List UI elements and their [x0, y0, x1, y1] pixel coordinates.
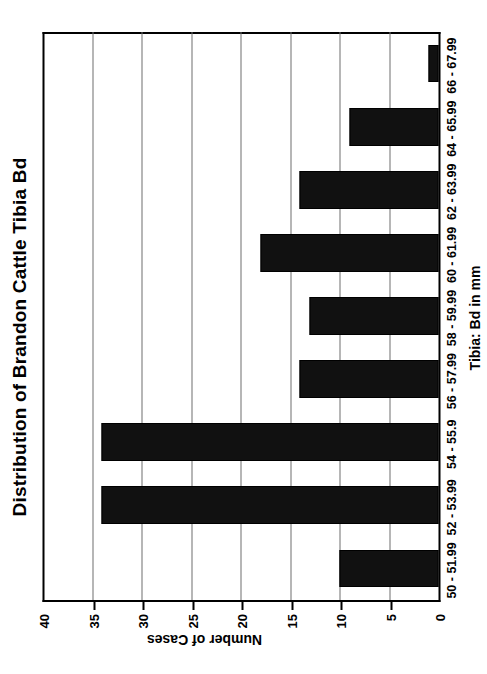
value-axis-tick-mark: [390, 602, 392, 610]
bar-slot: [42, 95, 438, 158]
value-axis-tick-label: 5: [383, 614, 398, 621]
value-axis-tick-mark: [192, 602, 194, 610]
chart-title: Distribution of Brandon Cattle Tibia Bd: [8, 0, 30, 674]
value-axis-tick-label: 15: [284, 614, 299, 628]
bar-slot: [42, 221, 438, 284]
value-axis-tick-mark: [340, 602, 342, 610]
value-axis-tick-label: 20: [235, 614, 250, 628]
bar: [299, 171, 438, 209]
value-axis-tick-mark: [291, 602, 293, 610]
value-axis-tick-label: 25: [185, 614, 200, 628]
bar-slot: [42, 537, 438, 600]
category-axis-title: Tibia: Bd in mm: [466, 34, 482, 602]
chart-page: Distribution of Brandon Cattle Tibia Bd …: [0, 0, 487, 674]
bar: [101, 423, 438, 461]
bar-slot: [42, 284, 438, 347]
value-axis-tick-mark: [142, 602, 144, 610]
value-axis-tick-label: 10: [334, 614, 349, 628]
value-axis-tick-mark: [241, 602, 243, 610]
value-axis-title: Number of Cases: [74, 632, 334, 648]
bar: [299, 360, 438, 398]
value-axis-tick-mark: [93, 602, 95, 610]
bar: [260, 234, 438, 272]
value-axis-tick-label: 40: [37, 614, 52, 628]
bar: [428, 45, 438, 83]
value-axis-tick-label: 35: [86, 614, 101, 628]
bar-slot: [42, 411, 438, 474]
bar: [309, 297, 438, 335]
bar-series: [42, 32, 438, 600]
plot-area: [42, 32, 440, 602]
value-axis-tick-label: 30: [136, 614, 151, 628]
bar: [349, 108, 438, 146]
rotated-chart-stage: Distribution of Brandon Cattle Tibia Bd …: [0, 0, 487, 674]
bar-slot: [42, 158, 438, 221]
bar: [101, 486, 438, 524]
bar-slot: [42, 474, 438, 537]
value-axis-tick-label: 0: [433, 614, 448, 621]
bar-slot: [42, 348, 438, 411]
bar-slot: [42, 32, 438, 95]
bar: [339, 550, 438, 588]
